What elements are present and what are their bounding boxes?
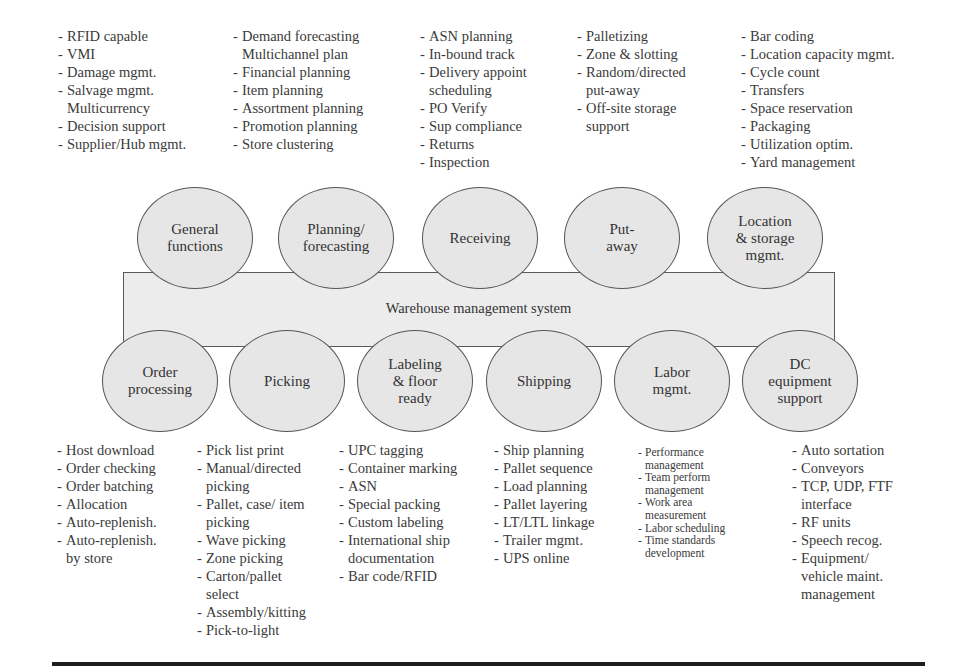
list-item: -International shipdocumentation — [339, 531, 457, 567]
dash-bullet-icon: - — [792, 459, 801, 477]
list-item: -Assortment planning — [233, 99, 363, 117]
list-item: -ASN planning — [420, 27, 527, 45]
list-item: -UPC tagging — [339, 441, 457, 459]
list-item: -Space reservation — [741, 99, 895, 117]
list-item: -Pallet, case/ itempicking — [197, 495, 306, 531]
node-label-line: mgmt. — [736, 247, 795, 264]
list-put-away: -Palletizing-Zone & slotting-Random/dire… — [577, 27, 686, 135]
dash-bullet-icon: - — [339, 513, 348, 531]
node-labeling-floor-ready: Labeling& floorready — [357, 330, 473, 432]
list-item: -Off-site storagesupport — [577, 99, 686, 135]
dash-bullet-icon: - — [197, 567, 206, 585]
node-label-line: Location — [736, 213, 795, 230]
node-label-line: away — [606, 238, 638, 255]
list-item: -RF units — [792, 513, 893, 531]
list-item: -Returns — [420, 135, 527, 153]
list-shipping: -Ship planning-Pallet sequence-Load plan… — [494, 441, 594, 567]
node-label-line: & storage — [736, 230, 795, 247]
dash-bullet-icon: - — [197, 549, 206, 567]
dash-bullet-icon: - — [197, 621, 206, 639]
list-item: -PO Verify — [420, 99, 527, 117]
list-receiving: -ASN planning-In-bound track-Delivery ap… — [420, 27, 527, 171]
list-item: -Container marking — [339, 459, 457, 477]
list-item: -Work areameasurement — [638, 496, 725, 521]
list-item: -Store clustering — [233, 135, 363, 153]
list-item: -Supplier/Hub mgmt. — [58, 135, 186, 153]
node-put-away: Put-away — [564, 187, 680, 289]
dash-bullet-icon: - — [339, 459, 348, 477]
dash-bullet-icon: - — [339, 441, 348, 459]
node-label-line: Shipping — [517, 373, 571, 390]
bottom-rule-divider — [52, 662, 925, 666]
dash-bullet-icon: - — [420, 135, 429, 153]
list-item: -Sup compliance — [420, 117, 527, 135]
dash-bullet-icon: - — [57, 459, 66, 477]
node-label-line: ready — [388, 390, 441, 407]
dash-bullet-icon: - — [494, 513, 503, 531]
list-item: -TCP, UDP, FTFinterface — [792, 477, 893, 513]
dash-bullet-icon: - — [58, 27, 67, 45]
list-item: -Promotion planning — [233, 117, 363, 135]
list-item: -Assembly/kitting — [197, 603, 306, 621]
dash-bullet-icon: - — [197, 459, 206, 477]
dash-bullet-icon: - — [233, 135, 242, 153]
dash-bullet-icon: - — [197, 441, 206, 459]
list-item: -ASN — [339, 477, 457, 495]
dash-bullet-icon: - — [57, 477, 66, 495]
list-item: -Auto-replenish.by store — [57, 531, 157, 567]
list-item: -Carton/palletselect — [197, 567, 306, 603]
dash-bullet-icon: - — [792, 531, 801, 549]
dash-bullet-icon: - — [57, 513, 66, 531]
list-general-functions: -RFID capable-VMI-Damage mgmt.-Salvage m… — [58, 27, 186, 153]
node-label-line: DC — [768, 356, 831, 373]
list-item: -RFID capable — [58, 27, 186, 45]
list-item: -Salvage mgmt.Multicurrency — [58, 81, 186, 117]
node-label-line: & floor — [388, 373, 441, 390]
list-item: -Yard management — [741, 153, 895, 171]
dash-bullet-icon: - — [494, 459, 503, 477]
dash-bullet-icon: - — [741, 135, 750, 153]
dash-bullet-icon: - — [420, 45, 429, 63]
dash-bullet-icon: - — [741, 27, 750, 45]
dash-bullet-icon: - — [197, 495, 206, 513]
dash-bullet-icon: - — [420, 27, 429, 45]
list-item: -Pick list print — [197, 441, 306, 459]
dash-bullet-icon: - — [58, 81, 67, 99]
list-planning-forecasting: -Demand forecastingMultichannel plan-Fin… — [233, 27, 363, 153]
list-item: -Special packing — [339, 495, 457, 513]
dash-bullet-icon: - — [638, 496, 645, 509]
list-item: -Performancemanagement — [638, 446, 725, 471]
list-item: -Ship planning — [494, 441, 594, 459]
node-label-line: support — [768, 390, 831, 407]
node-picking: Picking — [229, 330, 345, 432]
list-item: -Team performmanagement — [638, 471, 725, 496]
dash-bullet-icon: - — [58, 117, 67, 135]
list-item: -Load planning — [494, 477, 594, 495]
dash-bullet-icon: - — [741, 99, 750, 117]
dash-bullet-icon: - — [792, 441, 801, 459]
dash-bullet-icon: - — [792, 549, 801, 567]
dash-bullet-icon: - — [420, 117, 429, 135]
dash-bullet-icon: - — [741, 63, 750, 81]
list-item: -Decision support — [58, 117, 186, 135]
list-item: -Item planning — [233, 81, 363, 99]
dash-bullet-icon: - — [494, 549, 503, 567]
list-item: -VMI — [58, 45, 186, 63]
list-item: -Time standardsdevelopment — [638, 534, 725, 559]
list-item: -LT/LTL linkage — [494, 513, 594, 531]
list-item: -Inspection — [420, 153, 527, 171]
dash-bullet-icon: - — [57, 531, 66, 549]
list-labeling-floor-ready: -UPC tagging-Container marking-ASN-Speci… — [339, 441, 457, 585]
list-item: -Packaging — [741, 117, 895, 135]
node-label-line: equipment — [768, 373, 831, 390]
list-item: -Location capacity mgmt. — [741, 45, 895, 63]
dash-bullet-icon: - — [233, 27, 242, 45]
dash-bullet-icon: - — [494, 531, 503, 549]
node-label-line: Labeling — [388, 356, 441, 373]
list-item: -Bar coding — [741, 27, 895, 45]
node-order-processing: Orderprocessing — [102, 330, 218, 432]
node-label-line: Put- — [606, 221, 638, 238]
dash-bullet-icon: - — [339, 531, 348, 549]
list-item: -Delivery appointscheduling — [420, 63, 527, 99]
dash-bullet-icon: - — [741, 81, 750, 99]
